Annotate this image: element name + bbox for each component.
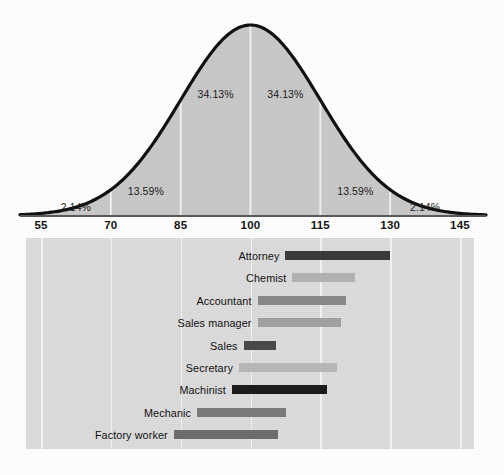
- occupations-panel: AttorneyChemistAccountantSales managerSa…: [26, 238, 474, 449]
- occupation-label: Machinist: [26, 383, 226, 397]
- x-axis-line: [20, 215, 486, 217]
- occupation-range-bar: [258, 318, 342, 327]
- curve-shaded-area: [20, 25, 486, 216]
- occupation-row: Secretary: [26, 358, 474, 378]
- occupation-row: Sales: [26, 336, 474, 356]
- occupation-row: Machinist: [26, 380, 474, 400]
- occupation-row: Chemist: [26, 268, 474, 288]
- region-percentage-4: 13.59%: [337, 186, 373, 197]
- occupation-range-bar: [197, 408, 286, 417]
- occupation-label: Accountant: [26, 294, 252, 308]
- x-tick-label-85: 85: [174, 220, 187, 232]
- occupation-range-bar: [258, 296, 347, 305]
- occupation-range-bar: [292, 273, 355, 282]
- x-tick-label-55: 55: [34, 220, 47, 232]
- occupation-range-bar: [232, 385, 327, 394]
- x-tick-label-145: 145: [450, 220, 470, 232]
- occupation-label: Secretary: [26, 361, 233, 375]
- x-axis-tick-labels: 557085100115130145: [0, 220, 504, 238]
- occupation-label: Mechanic: [26, 406, 191, 420]
- occupation-row: Factory worker: [26, 425, 474, 445]
- region-percentage-5: 2.14%: [410, 202, 440, 213]
- occupation-label: Sales: [26, 339, 238, 353]
- region-percentage-3: 34.13%: [267, 89, 303, 100]
- normal-curve-svg: [0, 0, 504, 220]
- region-percentage-1: 13.59%: [128, 186, 164, 197]
- normal-curve-panel: 2.14%13.59%34.13%34.13%13.59%2.14%: [0, 0, 504, 220]
- occupations-rows: AttorneyChemistAccountantSales managerSa…: [26, 238, 474, 449]
- occupation-row: Accountant: [26, 291, 474, 311]
- occupation-row: Sales manager: [26, 313, 474, 333]
- iq-distribution-figure: 2.14%13.59%34.13%34.13%13.59%2.14% 55708…: [0, 0, 504, 475]
- occupation-label: Attorney: [26, 249, 279, 263]
- occupation-range-bar: [285, 251, 390, 260]
- curve-region-dividers: [41, 24, 460, 216]
- x-tick-label-115: 115: [311, 220, 330, 232]
- occupation-row: Attorney: [26, 246, 474, 266]
- occupation-label: Sales manager: [26, 316, 252, 330]
- occupation-range-bar: [244, 341, 277, 350]
- region-percentage-0: 2.14%: [61, 202, 91, 213]
- region-percentage-2: 34.13%: [197, 89, 233, 100]
- occupation-label: Factory worker: [26, 428, 168, 442]
- x-tick-label-100: 100: [241, 220, 261, 232]
- occupation-range-bar: [174, 430, 279, 439]
- x-tick-label-70: 70: [104, 220, 117, 232]
- occupation-range-bar: [239, 363, 337, 372]
- occupation-row: Mechanic: [26, 403, 474, 423]
- x-tick-label-130: 130: [380, 220, 400, 232]
- occupation-label: Chemist: [26, 271, 286, 285]
